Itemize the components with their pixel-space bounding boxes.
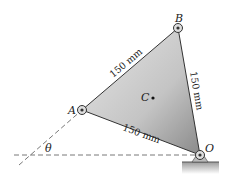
- triangular-plate-diagram: A B C O θ 150 mm 150 mm 150 mm: [0, 0, 229, 181]
- center-of-mass-dot: [151, 96, 154, 99]
- pin-O-icon: [196, 151, 205, 160]
- label-A: A: [67, 104, 76, 117]
- label-theta: θ: [45, 142, 52, 155]
- label-O: O: [205, 142, 214, 155]
- label-B: B: [174, 12, 183, 25]
- label-C: C: [141, 91, 150, 104]
- pin-A-icon: [78, 106, 87, 115]
